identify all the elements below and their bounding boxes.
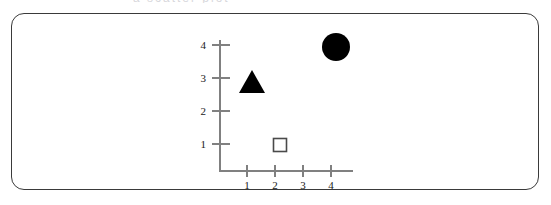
y-tick-label-2: 2 [201, 105, 207, 117]
plot-svg: 4 3 2 1 1 2 3 4 [12, 14, 540, 191]
scatter-plot: 4 3 2 1 1 2 3 4 [12, 14, 540, 191]
y-axis-tick-labels: 4 3 2 1 [201, 39, 207, 150]
top-text-remnant: a scatter plot [133, 0, 353, 3]
data-point-circle[interactable] [322, 33, 350, 61]
y-tick-label-4: 4 [201, 39, 207, 51]
chart-panel: 4 3 2 1 1 2 3 4 [11, 13, 539, 190]
data-point-square[interactable] [274, 139, 287, 152]
y-tick-label-1: 1 [201, 138, 207, 150]
data-point-triangle[interactable] [239, 70, 265, 93]
y-tick-label-3: 3 [201, 72, 207, 84]
x-tick-label-2: 2 [272, 179, 278, 191]
x-tick-label-1: 1 [244, 179, 250, 191]
y-axis-ticks [212, 45, 230, 144]
x-tick-label-4: 4 [328, 179, 334, 191]
x-tick-label-3: 3 [300, 179, 306, 191]
x-axis-tick-labels: 1 2 3 4 [244, 179, 334, 191]
data-markers [239, 33, 350, 152]
